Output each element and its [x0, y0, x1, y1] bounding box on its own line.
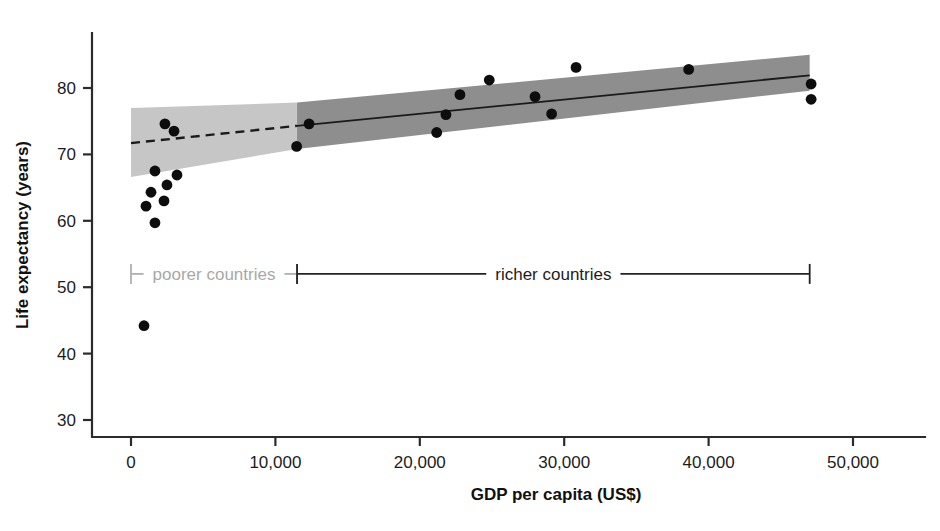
confidence-bands [131, 55, 810, 177]
y-axis-tick-labels: 304050607080 [57, 79, 76, 430]
data-point [571, 62, 582, 73]
data-point [683, 64, 694, 75]
y-axis-tick-label: 30 [57, 411, 76, 430]
x-axis-tick-label: 0 [126, 453, 135, 472]
data-point [150, 217, 161, 228]
poorer-countries-bracket: poorer countries [131, 264, 297, 284]
bracket-richer-label: richer countries [495, 265, 611, 284]
x-axis-tick-label: 40,000 [683, 453, 735, 472]
bracket-poorer-label: poorer countries [153, 265, 276, 284]
data-point [455, 89, 466, 100]
x-axis-tick-label: 50,000 [827, 453, 879, 472]
data-point [160, 118, 171, 129]
data-point [146, 187, 157, 198]
x-axis-tick-label: 30,000 [538, 453, 590, 472]
richer-countries-confidence-band [297, 55, 810, 149]
data-point [291, 141, 302, 152]
y-axis-tick-label: 50 [57, 278, 76, 297]
data-point [169, 126, 180, 137]
data-point [484, 75, 495, 86]
chart-svg: 304050607080 010,00020,00030,00040,00050… [0, 0, 940, 531]
y-axis-tick-label: 60 [57, 212, 76, 231]
data-point [806, 94, 817, 105]
data-point [150, 166, 161, 177]
x-axis-tick-labels: 010,00020,00030,00040,00050,000 [126, 453, 879, 472]
data-point [304, 118, 315, 129]
data-point [139, 320, 150, 331]
y-axis-title: Life expectancy (years) [13, 141, 32, 329]
x-axis-title: GDP per capita (US$) [471, 485, 642, 504]
data-point [431, 127, 442, 138]
x-axis-ticks [131, 437, 853, 446]
scatter-chart-figure: 304050607080 010,00020,00030,00040,00050… [0, 0, 940, 531]
data-point [530, 91, 541, 102]
range-brackets: poorer countries richer countries [131, 264, 810, 284]
x-axis-tick-label: 20,000 [394, 453, 446, 472]
y-axis-ticks [83, 88, 92, 420]
y-axis-tick-label: 70 [57, 145, 76, 164]
data-point [162, 180, 173, 191]
data-point [141, 201, 152, 212]
data-point [806, 79, 817, 90]
y-axis-tick-label: 80 [57, 79, 76, 98]
x-axis-tick-label: 10,000 [249, 453, 301, 472]
data-point [441, 109, 452, 120]
y-axis-tick-label: 40 [57, 345, 76, 364]
data-point [172, 170, 183, 181]
richer-countries-bracket: richer countries [297, 264, 810, 284]
data-point [546, 108, 557, 119]
data-point [159, 195, 170, 206]
